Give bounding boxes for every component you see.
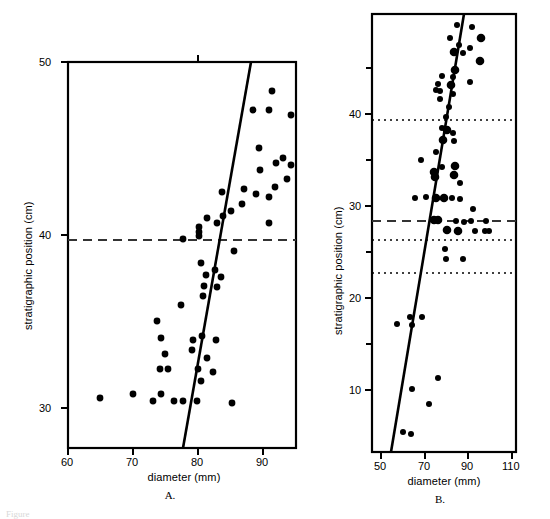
- panel-b-caption: B.: [420, 493, 460, 505]
- panel-a: stratigraphic position (cm) 50 40 30: [0, 0, 310, 500]
- panel-a-xtick-60: 60: [61, 456, 73, 468]
- panel-b-xtick-90: 90: [461, 460, 473, 472]
- panel-a-x-axis-label: diameter (mm): [114, 471, 254, 483]
- panel-b-xtick-50: 50: [374, 460, 386, 472]
- panel-b-xtick-110: 110: [502, 460, 520, 472]
- panel-a-caption: A.: [150, 489, 190, 501]
- panel-a-points: [97, 88, 295, 407]
- panel-a-plot: [0, 0, 310, 470]
- panel-b-points: [394, 22, 492, 437]
- panel-b: stratigraphic position (cm) 40 30 20 10: [310, 0, 550, 510]
- panel-a-regression-line: [183, 62, 251, 448]
- panel-b-x-axis-label: diameter (mm): [374, 475, 514, 487]
- panel-b-plot: [310, 0, 550, 475]
- panel-b-xtick-70: 70: [418, 460, 430, 472]
- figure-bottom-caption: Figure: [6, 509, 30, 519]
- panel-a-axis-frame: [68, 62, 296, 448]
- panel-a-xtick-70: 70: [126, 456, 138, 468]
- panel-a-xtick-80: 80: [191, 456, 203, 468]
- panel-a-xtick-90: 90: [256, 456, 268, 468]
